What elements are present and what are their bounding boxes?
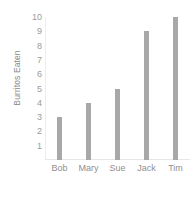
y-tick-label: 3	[37, 113, 42, 122]
bar[interactable]	[86, 103, 91, 160]
y-tick-label: 4	[37, 98, 42, 107]
y-tick-label: 8	[37, 41, 42, 50]
x-tick-label: Jack	[137, 163, 156, 174]
plot-area	[45, 17, 190, 160]
y-tick-label: 2	[37, 127, 42, 136]
y-axis-title-text: Burritos Eaten	[12, 50, 22, 105]
bar-slot	[45, 17, 74, 160]
y-tick-label: 5	[37, 84, 42, 93]
x-tick-label: Tim	[168, 163, 183, 174]
y-axis-title: Burritos Eaten	[10, 0, 24, 155]
y-tick-label: 7	[37, 55, 42, 64]
bar-slot	[161, 17, 190, 160]
y-tick-label: 6	[37, 70, 42, 79]
bar[interactable]	[144, 31, 149, 160]
bar-slot	[74, 17, 103, 160]
y-tick-label: 1	[37, 141, 42, 150]
y-tick-label: 10	[32, 13, 42, 22]
bar-chart-figure: Burritos Eaten 12345678910 BobMarySueJac…	[0, 0, 195, 197]
bar[interactable]	[115, 89, 120, 161]
bar-slot	[103, 17, 132, 160]
x-tick-label: Mary	[79, 163, 99, 174]
x-tick-label: Sue	[109, 163, 125, 174]
bar[interactable]	[173, 17, 178, 160]
y-tick-label: 9	[37, 27, 42, 36]
x-tick-label: Bob	[51, 163, 67, 174]
y-axis-tick-labels: 12345678910	[24, 17, 42, 160]
bar[interactable]	[57, 117, 62, 160]
bar-slot	[132, 17, 161, 160]
x-axis-tick-labels: BobMarySueJackTim	[45, 163, 190, 181]
